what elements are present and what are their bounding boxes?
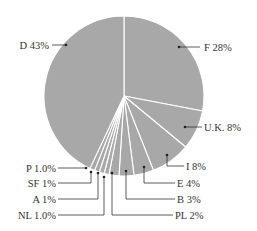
slice-label-pl: PL 2%: [175, 210, 204, 221]
slice-label-a: A 1%: [32, 194, 56, 205]
leader-dot-nl: [103, 176, 106, 179]
leader-dot-a: [97, 172, 100, 175]
slice-label-f: F 28%: [204, 42, 232, 53]
leader-dot-d: [65, 44, 68, 47]
slice-label-p: P 1.0%: [26, 163, 56, 174]
leader-dot-p: [85, 167, 88, 170]
pie-chart: F 28%U.K. 8%I 8%E 4%B 3%PL 2%NL 1.0%A 1%…: [0, 0, 257, 231]
pie-slice-f: [124, 16, 204, 111]
leader-line-sf: [58, 172, 91, 183]
slice-label-d: D 43%: [20, 40, 50, 51]
leader-line-a: [58, 173, 98, 199]
slice-label-e: E 4%: [177, 178, 200, 189]
slice-label-sf: SF 1%: [28, 178, 57, 189]
leader-dot-e: [143, 166, 146, 169]
leader-dot-f: [178, 46, 181, 49]
slice-label-b: B 3%: [177, 194, 201, 205]
leader-dot-b: [125, 170, 128, 173]
slice-label-uk: U.K. 8%: [204, 122, 241, 133]
leader-dot-uk: [184, 126, 187, 129]
leader-dot-i: [166, 154, 169, 157]
leader-dot-pl: [111, 172, 114, 175]
slice-label-nl: NL 1.0%: [18, 210, 56, 221]
leader-line-pl: [112, 173, 173, 215]
leader-dot-sf: [90, 171, 93, 174]
pie-slices: [44, 16, 204, 176]
slice-label-i: I 8%: [186, 161, 206, 172]
